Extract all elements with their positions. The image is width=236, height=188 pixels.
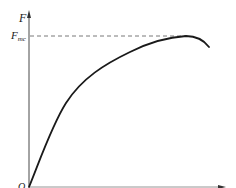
fmc-label-main: F xyxy=(11,29,18,41)
x-axis-arrow-icon xyxy=(218,185,226,188)
y-axis-arrow-icon xyxy=(27,10,31,18)
force-elongation-diagram: F Fmc O ΔL xyxy=(0,0,236,188)
diagram-canvas xyxy=(0,0,236,188)
y-axis-label: F xyxy=(19,12,26,24)
force-curve xyxy=(29,36,209,187)
origin-label: O xyxy=(18,182,25,188)
fmc-label-sub: mc xyxy=(18,35,26,43)
fmc-label: Fmc xyxy=(11,30,26,43)
